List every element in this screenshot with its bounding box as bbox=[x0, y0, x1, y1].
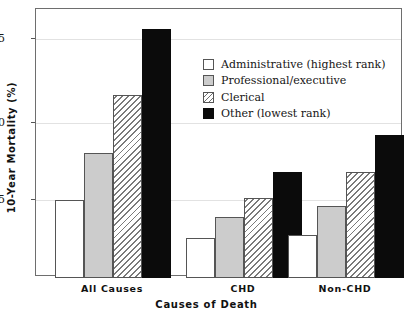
bar-all-causes-administrative bbox=[55, 200, 84, 279]
bar-all-causes-other bbox=[142, 29, 171, 278]
gridline-10 bbox=[36, 123, 401, 124]
bar-chd-professional bbox=[215, 217, 244, 278]
x-axis-title: Causes of Death bbox=[0, 299, 413, 310]
y-tick-label-5: 5 bbox=[0, 193, 5, 206]
gridline-15 bbox=[36, 39, 401, 40]
bar-chd-clerical bbox=[244, 198, 273, 278]
legend-swatch-professional-icon bbox=[203, 75, 214, 86]
bar-non-chd-administrative bbox=[288, 235, 317, 278]
legend-label-administrative: Administrative (highest rank) bbox=[221, 58, 386, 71]
legend-label-professional: Professional/executive bbox=[221, 74, 346, 87]
legend-item-administrative: Administrative (highest rank) bbox=[203, 56, 386, 73]
legend-item-clerical: Clerical bbox=[203, 89, 386, 106]
x-tick-label-non-chd: Non-CHD bbox=[319, 283, 372, 294]
legend-label-clerical: Clerical bbox=[221, 91, 264, 104]
y-tick-label-15: 15 bbox=[0, 32, 5, 45]
bar-non-chd-other bbox=[375, 135, 404, 278]
legend-swatch-clerical-icon bbox=[203, 92, 214, 103]
x-tick-label-chd: CHD bbox=[231, 283, 256, 294]
legend-item-professional: Professional/executive bbox=[203, 73, 386, 90]
legend-label-other: Other (lowest rank) bbox=[221, 107, 331, 120]
bar-all-causes-professional bbox=[84, 153, 113, 278]
bar-all-causes-clerical bbox=[113, 95, 142, 278]
legend-swatch-administrative-icon bbox=[203, 59, 214, 70]
bar-non-chd-professional bbox=[317, 206, 346, 278]
mortality-bar-chart: 10-Year Mortality (%) 15 10 5 Administr bbox=[0, 0, 413, 312]
bar-chd-administrative bbox=[186, 238, 215, 278]
y-tick-label-10: 10 bbox=[0, 115, 5, 128]
plot-area: Administrative (highest rank) Profession… bbox=[35, 8, 402, 276]
legend: Administrative (highest rank) Profession… bbox=[203, 56, 386, 122]
y-axis-title: 10-Year Mortality (%) bbox=[6, 33, 17, 263]
legend-swatch-other-icon bbox=[203, 108, 214, 119]
bar-non-chd-clerical bbox=[346, 172, 375, 278]
legend-item-other: Other (lowest rank) bbox=[203, 106, 386, 123]
x-tick-label-all-causes: All Causes bbox=[81, 283, 143, 294]
